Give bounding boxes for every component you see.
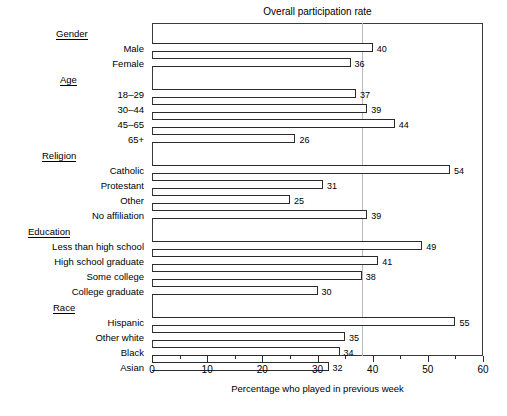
bar <box>152 347 340 356</box>
group-header-gender: Gender <box>56 29 88 40</box>
x-axis-title: Percentage who played in previous week <box>152 383 483 395</box>
x-tick-major <box>152 356 153 362</box>
category-label: Other <box>120 196 144 206</box>
bars-container: 403637394426543125394941383055353432 <box>152 23 483 356</box>
x-tick-label: 30 <box>312 364 323 376</box>
bar-value-label: 55 <box>459 318 469 328</box>
x-tick-label: 20 <box>257 364 268 376</box>
group-header-race: Race <box>53 303 75 314</box>
bar-value-label: 35 <box>349 333 359 343</box>
bar <box>152 89 356 98</box>
category-label: Less than high school <box>52 242 144 252</box>
x-tick-label: 40 <box>367 364 378 376</box>
x-tick-label: 50 <box>422 364 433 376</box>
x-tick-minor <box>400 356 401 359</box>
bar-value-label: 25 <box>294 196 304 206</box>
bar <box>152 43 373 52</box>
x-tick-major <box>428 356 429 362</box>
group-header-education: Education <box>28 227 70 238</box>
chart-title: Overall participation rate <box>152 6 483 18</box>
bar-value-label: 37 <box>360 90 370 100</box>
bar-value-label: 30 <box>322 287 332 297</box>
category-label: Female <box>112 59 144 69</box>
category-label: Hispanic <box>108 318 144 328</box>
bar <box>152 210 367 219</box>
x-tick-major <box>207 356 208 362</box>
x-tick-label: 60 <box>477 364 488 376</box>
bar <box>152 256 378 265</box>
x-tick-minor <box>290 356 291 359</box>
x-tick-major <box>318 356 319 362</box>
x-tick-major <box>483 356 484 362</box>
bar <box>152 165 450 174</box>
bar <box>152 58 351 67</box>
bar <box>152 134 295 143</box>
category-label-column: GenderMaleFemaleAge18–2930–4445–6565+Rel… <box>0 23 148 356</box>
x-tick-major <box>373 356 374 362</box>
bar <box>152 317 455 326</box>
group-header-religion: Religion <box>42 151 76 162</box>
category-label: 65+ <box>128 135 144 145</box>
x-tick-minor <box>180 356 181 359</box>
category-label: College graduate <box>72 287 144 297</box>
category-label: Catholic <box>110 166 144 176</box>
bar <box>152 241 422 250</box>
category-label: 30–44 <box>118 105 144 115</box>
x-tick-minor <box>345 356 346 359</box>
category-label: High school graduate <box>54 257 144 267</box>
category-label: Male <box>123 44 144 54</box>
category-label: Asian <box>120 363 144 373</box>
x-tick-minor <box>455 356 456 359</box>
bar-value-label: 41 <box>382 257 392 267</box>
bar-value-label: 38 <box>366 272 376 282</box>
bar <box>152 104 367 113</box>
bar-value-label: 26 <box>299 135 309 145</box>
bar-value-label: 39 <box>371 211 381 221</box>
category-label: Black <box>121 348 144 358</box>
bar-value-label: 31 <box>327 181 337 191</box>
bar <box>152 286 318 295</box>
x-tick-label: 10 <box>202 364 213 376</box>
bar-value-label: 36 <box>355 59 365 69</box>
participation-rate-chart: Overall participation rate GenderMaleFem… <box>0 0 507 416</box>
category-label: Protestant <box>101 181 144 191</box>
bar <box>152 119 395 128</box>
x-tick-label: 0 <box>149 364 155 376</box>
bar-value-label: 49 <box>426 242 436 252</box>
bar-value-label: 39 <box>371 105 381 115</box>
bar-value-label: 54 <box>454 166 464 176</box>
category-label: 18–29 <box>118 90 144 100</box>
category-label: 45–65 <box>118 120 144 130</box>
x-axis: Percentage who played in previous week 0… <box>152 356 483 416</box>
group-header-age: Age <box>60 75 77 86</box>
bar-value-label: 44 <box>399 120 409 130</box>
category-label: Other white <box>95 333 144 343</box>
bar-value-label: 40 <box>377 44 387 54</box>
bar <box>152 271 362 280</box>
category-label: No affiliation <box>92 211 144 221</box>
bar <box>152 180 323 189</box>
x-tick-major <box>262 356 263 362</box>
bar <box>152 332 345 341</box>
x-tick-minor <box>235 356 236 359</box>
bar <box>152 195 290 204</box>
category-label: Some college <box>86 272 144 282</box>
